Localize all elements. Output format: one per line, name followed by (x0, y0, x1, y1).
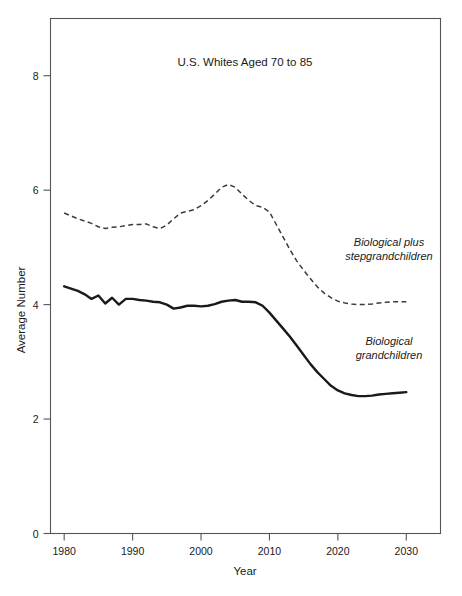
annotation-biological-plus-stepgrandchildren: Biological plus stepgrandchildren (345, 236, 432, 262)
annotation-biological-grandchildren: Biological grandchildren (356, 335, 423, 361)
annotation-line-1: Biological (365, 335, 413, 347)
x-axis-title: Year (233, 565, 256, 577)
x-tick-label: 1990 (121, 545, 145, 557)
x-tick-label: 2010 (258, 545, 282, 557)
x-tick-label: 1980 (53, 545, 77, 557)
annotation-line-2: stepgrandchildren (345, 250, 432, 262)
y-axis-tick-labels: 02468 (33, 70, 39, 540)
x-tick-label: 2030 (395, 545, 419, 557)
x-axis-tick-labels: 198019902000201020202030 (53, 545, 419, 557)
y-tick-label: 8 (33, 70, 39, 82)
series-line-biological-grandchildren (64, 286, 406, 396)
chart-title: U.S. Whites Aged 70 to 85 (178, 56, 313, 68)
annotation-line-2: grandchildren (356, 349, 423, 361)
y-tick-label: 6 (33, 184, 39, 196)
line-chart: 02468 198019902000201020202030 U.S. Whit… (0, 0, 462, 596)
x-axis-ticks (64, 534, 406, 541)
y-axis-title: Average Number (15, 266, 27, 353)
x-tick-label: 2000 (189, 545, 213, 557)
y-tick-label: 4 (33, 299, 39, 311)
y-tick-label: 0 (33, 528, 39, 540)
plot-frame (51, 19, 441, 534)
x-tick-label: 2020 (326, 545, 350, 557)
y-axis-ticks (44, 76, 51, 534)
chart-figure: 02468 198019902000201020202030 U.S. Whit… (0, 0, 462, 596)
annotation-line-1: Biological plus (354, 236, 425, 248)
y-tick-label: 2 (33, 413, 39, 425)
